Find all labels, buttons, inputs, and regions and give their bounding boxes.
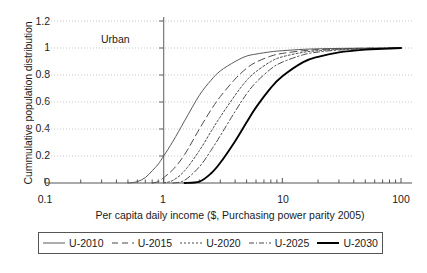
legend-entry[interactable]: U-2010 [43,238,103,249]
legend-entry[interactable]: U-2015 [112,238,172,249]
curve-u-2010 [128,48,401,183]
legend-swatch-u-2030 [317,238,339,248]
axis-lines [45,17,412,183]
legend-label: U-2015 [138,238,172,249]
legend-label: U-2010 [69,238,103,249]
legend-label: U-2020 [206,238,240,249]
legend-swatch-u-2015 [112,238,134,248]
legend-entry[interactable]: U-2025 [249,238,309,249]
legend-swatch-u-2020 [180,238,202,248]
legend-swatch-u-2010 [43,238,65,248]
legend-swatch-u-2025 [249,238,271,248]
curve-u-2015 [152,48,401,183]
gridlines [45,21,412,156]
legend: U-2010 U-2015 U-2020 U-2025 U-2030 [38,232,383,254]
curve-u-2020 [164,48,401,183]
legend-entry[interactable]: U-2020 [180,238,240,249]
curve-u-2030 [185,48,401,183]
legend-entry[interactable]: U-2030 [317,238,377,249]
legend-label: U-2025 [275,238,309,249]
legend-label: U-2030 [343,238,377,249]
data-curves [128,48,401,183]
chart-figure: Cummulative population distribution 1.2 … [0,0,427,273]
